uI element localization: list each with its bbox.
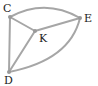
label-e: E — [84, 12, 92, 25]
node-e — [78, 16, 82, 20]
label-c: C — [3, 2, 11, 15]
graph-diagram: C E K D — [0, 0, 98, 86]
node-c — [8, 15, 12, 19]
edge-c-k — [10, 17, 35, 31]
edge-c-d — [9, 17, 10, 72]
label-k: K — [39, 32, 48, 45]
edge-e-d — [9, 18, 80, 72]
edge-k-e — [35, 18, 80, 31]
edge-c-e — [10, 8, 80, 18]
node-k — [33, 29, 37, 33]
label-d: D — [4, 74, 13, 86]
